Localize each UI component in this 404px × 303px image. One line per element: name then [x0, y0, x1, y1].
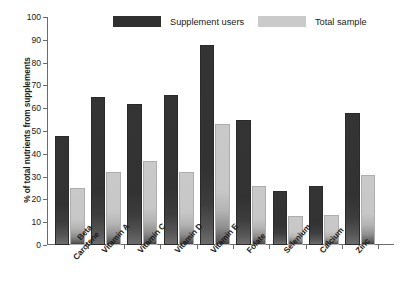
plot-area: 0102030405060708090100	[47, 17, 394, 245]
x-tick-mark	[306, 245, 307, 249]
y-tick-label: 20	[19, 194, 41, 204]
x-tick-mark	[124, 245, 125, 249]
y-tick-mark	[43, 17, 47, 18]
y-tick-mark	[43, 85, 47, 86]
y-tick-mark	[43, 108, 47, 109]
y-tick-mark	[43, 199, 47, 200]
bar-group	[164, 95, 194, 245]
y-tick-label: 80	[19, 58, 41, 68]
x-tick-mark	[342, 245, 343, 249]
bar-supplement-users	[309, 186, 324, 245]
bar-group	[345, 113, 375, 245]
bar-supplement-users	[273, 191, 288, 245]
x-tick-mark	[233, 245, 234, 249]
y-tick-label: 100	[19, 12, 41, 22]
x-tick-mark	[378, 245, 379, 249]
y-tick-mark	[43, 177, 47, 178]
y-tick-label: 90	[19, 35, 41, 45]
bar-group	[200, 45, 230, 245]
y-tick-label: 0	[19, 240, 41, 250]
bar-supplement-users	[91, 97, 106, 245]
x-tick-mark	[160, 245, 161, 249]
bar-supplement-users	[164, 95, 179, 245]
bar-group	[55, 136, 85, 245]
y-tick-label: 30	[19, 172, 41, 182]
y-tick-label: 70	[19, 80, 41, 90]
bar-supplement-users	[345, 113, 360, 245]
y-tick-mark	[43, 245, 47, 246]
y-axis-line	[47, 17, 48, 245]
y-tick-mark	[43, 40, 47, 41]
bar-chart: % of total nutrients from supplements Su…	[0, 0, 404, 303]
bar-group	[236, 120, 266, 245]
y-tick-mark	[43, 131, 47, 132]
bar-group	[127, 104, 157, 245]
bar-supplement-users	[55, 136, 70, 245]
y-tick-mark	[43, 222, 47, 223]
y-tick-label: 40	[19, 149, 41, 159]
y-tick-label: 50	[19, 126, 41, 136]
bar-supplement-users	[127, 104, 142, 245]
y-tick-label: 60	[19, 103, 41, 113]
bar-total-sample	[361, 175, 376, 245]
bar-group	[91, 97, 121, 245]
bar-supplement-users	[200, 45, 215, 245]
y-tick-mark	[43, 63, 47, 64]
y-tick-label: 10	[19, 217, 41, 227]
x-tick-mark	[197, 245, 198, 249]
y-tick-mark	[43, 154, 47, 155]
x-tick-mark	[269, 245, 270, 249]
